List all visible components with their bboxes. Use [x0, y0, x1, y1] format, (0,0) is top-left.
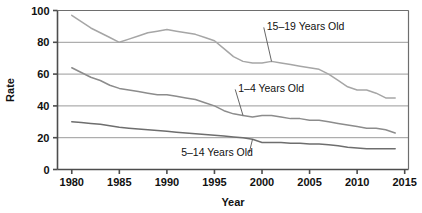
y-tick-label-20: 20 — [37, 132, 49, 144]
x-tick-label-2005: 2005 — [297, 176, 321, 188]
y-tick-label-80: 80 — [37, 36, 49, 48]
series-label-1: 1–4 Years Old — [238, 82, 304, 94]
x-tick-label-2010: 2010 — [345, 176, 369, 188]
y-tick-label-40: 40 — [37, 100, 49, 112]
x-tick-label-1980: 1980 — [60, 176, 84, 188]
x-tick-label-2015: 2015 — [392, 176, 416, 188]
y-axis-title: Rate — [4, 78, 16, 102]
x-axis-title: Year — [221, 196, 245, 208]
gridlines — [58, 11, 409, 138]
x-tick-label-1995: 1995 — [202, 176, 226, 188]
y-tick-label-0: 0 — [43, 164, 49, 176]
series-label-2: 5–14 Years Old — [181, 146, 253, 158]
x-tick-label-1985: 1985 — [107, 176, 131, 188]
x-axis-tick-labels: 19801985199019952000200520102015 — [60, 176, 417, 188]
y-axis-tick-labels: 020406080100 — [31, 5, 49, 176]
series-line-0 — [72, 15, 395, 98]
line-chart-figure: 020406080100 198019851990199520002005201… — [0, 0, 422, 213]
y-tick-label-60: 60 — [37, 68, 49, 80]
data-series-lines — [72, 15, 395, 149]
leader-line-0 — [264, 27, 272, 61]
y-tick-label-100: 100 — [31, 5, 49, 17]
chart-canvas: 020406080100 198019851990199520002005201… — [0, 0, 422, 213]
series-label-0: 15–19 Years Old — [267, 20, 345, 32]
x-tick-label-1990: 1990 — [155, 176, 179, 188]
x-tick-label-2000: 2000 — [250, 176, 274, 188]
series-line-1 — [72, 68, 395, 133]
series-line-2 — [72, 122, 395, 149]
